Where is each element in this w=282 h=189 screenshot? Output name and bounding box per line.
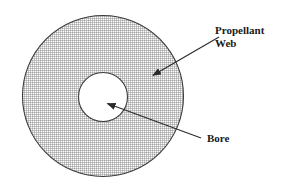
diagram-canvas: Propellant Web Bore: [0, 0, 282, 189]
bore-circle: [79, 73, 128, 122]
cross-section-diagram: Propellant Web Bore: [0, 0, 282, 189]
propellant-web-label-line2: Web: [215, 37, 236, 49]
propellant-web-label-line1: Propellant: [215, 24, 265, 36]
bore-label: Bore: [207, 132, 230, 144]
